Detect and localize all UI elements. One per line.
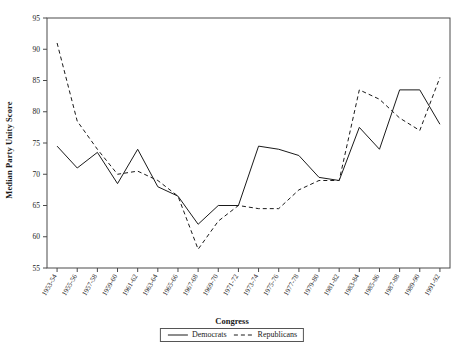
legend-item-republicans: Republicans	[233, 330, 298, 339]
y-tick-label: 65	[33, 201, 41, 210]
x-tick-label: 1987-88	[383, 273, 402, 298]
x-tick-label: 1963-64	[141, 273, 160, 298]
y-tick-label: 95	[33, 14, 41, 23]
x-tick-label: 1967-68	[181, 273, 200, 298]
x-tick-label: 1971-72	[222, 273, 241, 298]
y-tick-label: 85	[33, 76, 41, 85]
x-tick-label: 1959-60	[101, 273, 120, 298]
legend-line-solid-icon	[167, 331, 189, 339]
y-tick-label: 60	[33, 232, 41, 241]
x-tick-label: 1953-54	[40, 273, 59, 298]
plot-frame	[47, 18, 450, 268]
legend-label-democrats: Democrats	[192, 330, 227, 339]
x-tick-label: 1981-82	[322, 273, 341, 298]
x-tick-label: 1973-74	[242, 273, 261, 298]
legend-label-republicans: Republicans	[258, 330, 298, 339]
chart-plot-svg: 556065707580859095 1953-541955-561957-58…	[0, 0, 464, 349]
data-series-group	[57, 43, 440, 249]
y-axis-ticks: 556065707580859095	[33, 14, 48, 273]
y-tick-label: 75	[33, 139, 41, 148]
chart-legend: Democrats Republicans	[160, 328, 304, 342]
x-tick-label: 1991-92	[423, 273, 442, 298]
series-line-democrats	[57, 90, 440, 224]
x-tick-label: 1955-56	[60, 273, 79, 298]
x-axis-ticks: 1953-541955-561957-581959-601961-621963-…	[40, 268, 442, 297]
x-tick-label: 1961-62	[121, 273, 140, 298]
x-tick-label: 1979-80	[302, 273, 321, 298]
legend-item-democrats: Democrats	[167, 330, 227, 339]
series-line-republicans	[57, 43, 440, 249]
x-axis-title: Congress	[0, 316, 464, 326]
x-tick-label: 1985-86	[363, 273, 382, 298]
x-tick-label: 1969-70	[201, 273, 220, 298]
chart-figure: Median Party Unity Score 556065707580859…	[0, 0, 464, 349]
x-tick-label: 1975-76	[262, 273, 281, 298]
x-tick-label: 1957-58	[81, 273, 100, 298]
y-tick-label: 55	[33, 264, 41, 273]
y-tick-label: 90	[33, 45, 41, 54]
x-tick-label: 1977-78	[282, 273, 301, 298]
y-tick-label: 80	[33, 107, 41, 116]
x-tick-label: 1965-66	[161, 273, 180, 298]
x-tick-label: 1983-84	[342, 273, 361, 298]
y-tick-label: 70	[33, 170, 41, 179]
legend-line-dashed-icon	[233, 331, 255, 339]
x-tick-label: 1989-90	[403, 273, 422, 298]
